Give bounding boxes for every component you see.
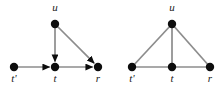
graph-canvas: [0, 0, 222, 90]
graph-node-r: [206, 63, 214, 71]
graph-node-r: [94, 63, 102, 71]
graph-edge-u-r: [55, 24, 94, 63]
graph-node-u: [168, 20, 176, 28]
undirected-graph: [128, 20, 214, 71]
graph-edge-u-r: [172, 24, 210, 67]
node-label-t: t: [170, 73, 173, 84]
graph-node-t: [168, 63, 176, 71]
node-label-r: r: [208, 73, 212, 84]
node-label-r: r: [96, 73, 100, 84]
graph-edge-u-tp: [132, 24, 172, 67]
node-label-u: u: [169, 2, 175, 13]
node-label-tp: t': [129, 73, 134, 84]
graph-node-tp: [128, 63, 136, 71]
node-label-u: u: [52, 2, 58, 13]
graph-node-tp: [10, 63, 18, 71]
graph-figure: ut'trut'tr: [0, 0, 222, 90]
directed-graph: [10, 20, 102, 71]
graph-node-u: [51, 20, 59, 28]
graph-node-t: [51, 63, 59, 71]
node-label-tp: t': [11, 73, 16, 84]
node-label-t: t: [53, 73, 56, 84]
